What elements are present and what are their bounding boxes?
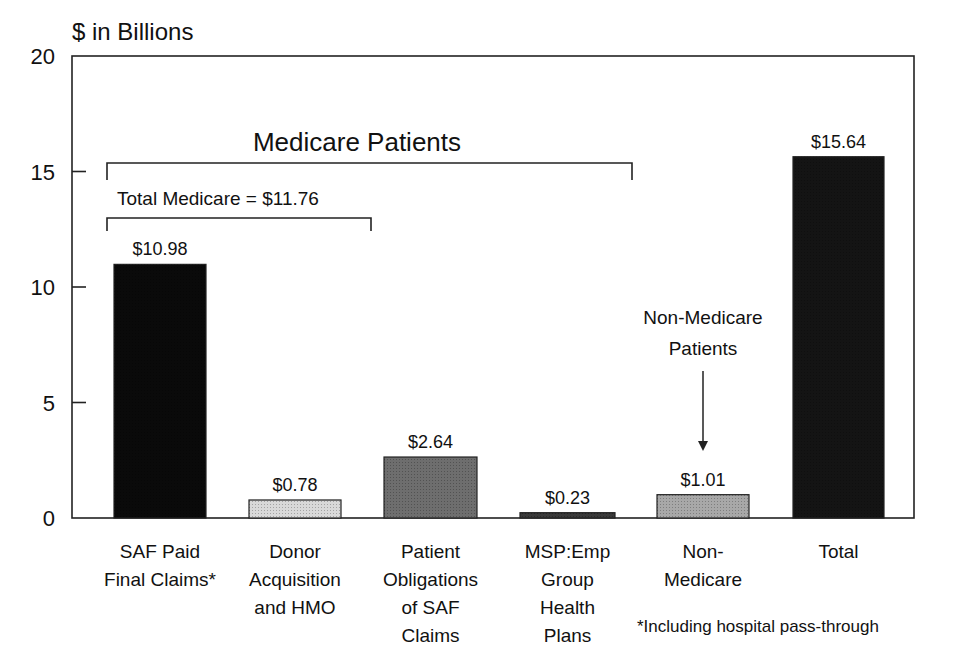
x-label-line: Obligations <box>383 569 478 590</box>
bar-group: $10.98 <box>114 239 206 518</box>
y-tick-label: 15 <box>31 160 55 185</box>
y-tick-label: 5 <box>43 391 55 416</box>
bar-group: $15.64 <box>793 132 884 518</box>
y-tick-label: 20 <box>31 44 55 69</box>
non-medicare-patients-annotation: Non-Medicare Patients <box>643 307 762 451</box>
x-label-line: Non- <box>682 541 723 562</box>
bar-group: $2.64 <box>384 432 477 518</box>
x-label-line: Health <box>540 597 595 618</box>
x-label-line: Medicare <box>664 569 742 590</box>
y-axis-label: $ in Billions <box>72 18 193 45</box>
value-label: $0.23 <box>545 488 590 508</box>
bar-texture <box>384 457 477 518</box>
x-label-line: Acquisition <box>249 569 341 590</box>
x-label-line: and HMO <box>254 597 335 618</box>
x-label-line: Donor <box>269 541 321 562</box>
value-label: $15.64 <box>811 132 866 152</box>
bar-group: $0.78 <box>249 475 341 518</box>
x-label-line: Claims <box>401 625 459 646</box>
bar-texture <box>114 264 206 518</box>
medicare-patients-label: Medicare Patients <box>253 127 461 157</box>
non-medicare-patients-line2: Patients <box>669 338 738 359</box>
x-label-line: MSP:Emp <box>525 541 611 562</box>
x-label-line: Total <box>818 541 858 562</box>
y-tick-label: 10 <box>31 275 55 300</box>
x-label-line: Patient <box>401 541 461 562</box>
bar-texture <box>520 513 615 518</box>
value-label: $2.64 <box>408 432 453 452</box>
x-label-line: Plans <box>544 625 592 646</box>
value-label: $1.01 <box>680 470 725 490</box>
x-category-label: SAF PaidFinal Claims* <box>104 541 217 590</box>
bar-group: $0.23 <box>520 488 615 518</box>
bar-texture <box>793 157 884 518</box>
arrow-down-icon <box>698 441 708 451</box>
x-label-line: of SAF <box>401 597 459 618</box>
x-category-label: Non-Medicare <box>664 541 742 590</box>
x-label-line: SAF Paid <box>120 541 200 562</box>
bar-texture <box>657 495 749 518</box>
footnote: *Including hospital pass-through <box>637 617 879 636</box>
x-label-line: Group <box>541 569 594 590</box>
bar-texture <box>249 500 341 518</box>
x-category-label: DonorAcquisitionand HMO <box>249 541 341 618</box>
x-category-label: Total <box>818 541 858 562</box>
total-medicare-label: Total Medicare = $11.76 <box>117 188 319 209</box>
non-medicare-patients-line1: Non-Medicare <box>643 307 762 328</box>
x-category-label: MSP:EmpGroupHealthPlans <box>525 541 611 646</box>
bar-group: $1.01 <box>657 470 749 518</box>
value-label: $0.78 <box>272 475 317 495</box>
medicare-patients-bracket: Medicare Patients <box>107 127 632 180</box>
value-label: $10.98 <box>132 239 187 259</box>
y-axis-ticks: 05101520 <box>31 44 86 531</box>
x-category-label: PatientObligationsof SAFClaims <box>383 541 478 646</box>
bar-chart: $ in Billions 05101520 $10.98$0.78$2.64$… <box>0 0 956 662</box>
x-label-line: Final Claims* <box>104 569 217 590</box>
y-tick-label: 0 <box>43 506 55 531</box>
total-medicare-bracket: Total Medicare = $11.76 <box>107 188 371 231</box>
